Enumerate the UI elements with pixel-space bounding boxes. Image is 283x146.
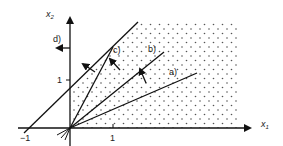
label-a: a) <box>169 67 177 77</box>
feasible-region <box>70 22 237 128</box>
x1-axis-label: x1 <box>260 119 269 130</box>
x2-tick-label-1: 1 <box>57 75 62 85</box>
label-d: d) <box>53 34 61 44</box>
linear-program-diagram: x2 x1 −1 1 1 d) c) b) a) <box>0 0 283 146</box>
label-b: b) <box>148 44 156 54</box>
x1-tick-label-neg1: −1 <box>20 133 30 143</box>
x2-axis-label: x2 <box>45 9 55 20</box>
x1-tick-label-1: 1 <box>110 133 115 143</box>
label-c: c) <box>113 45 121 55</box>
origin-stroke <box>61 128 70 138</box>
